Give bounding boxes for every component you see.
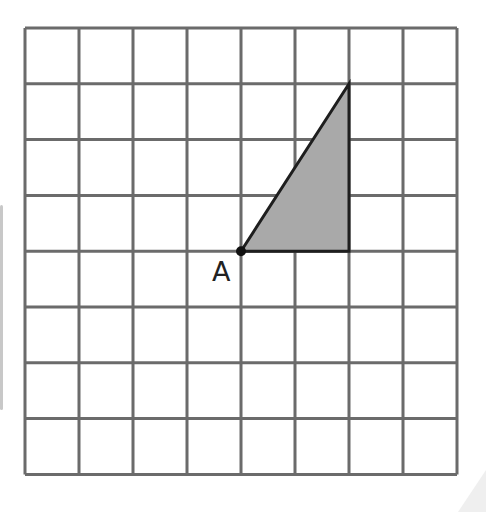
point-a-label: A (212, 256, 231, 287)
grid-diagram: A (0, 0, 486, 512)
point-a-dot (236, 246, 246, 256)
diagram-canvas: A (0, 0, 486, 512)
